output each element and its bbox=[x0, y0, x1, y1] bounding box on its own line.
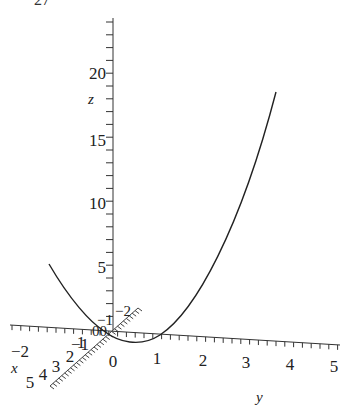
y-tick-label: −2 bbox=[11, 342, 29, 361]
z-tick-label: 20 bbox=[89, 64, 106, 83]
x-axis bbox=[50, 308, 142, 389]
z-tick-label: 10 bbox=[89, 194, 106, 213]
y-tick-label: 3 bbox=[242, 353, 251, 372]
origin-tick-00: 00 bbox=[92, 323, 107, 339]
y-tick-label: 5 bbox=[330, 357, 339, 376]
z-tick-label: 15 bbox=[89, 131, 106, 150]
y-axis bbox=[10, 325, 340, 350]
x-tick-label: 5 bbox=[26, 373, 35, 392]
y-axis-label: y bbox=[254, 389, 263, 405]
y-tick-label: 1 bbox=[153, 349, 162, 368]
plot-3d: z y x 2015105 −2−1012345 54321 −2 −1 00 bbox=[0, 0, 350, 409]
x-tick-label: 4 bbox=[39, 365, 48, 384]
y-tick-label: 4 bbox=[286, 355, 295, 374]
x-tick-label: 3 bbox=[52, 357, 61, 376]
x-axis-label: x bbox=[10, 360, 18, 376]
y-tick-label: 2 bbox=[199, 351, 208, 370]
z-axis bbox=[106, 18, 113, 330]
z-axis-label: z bbox=[87, 91, 94, 107]
data-curve bbox=[49, 92, 276, 342]
x-tick-label: 2 bbox=[66, 347, 75, 366]
y-tick-label: 0 bbox=[109, 352, 118, 371]
z-tick-label: 5 bbox=[98, 258, 107, 277]
x-tick-label: 1 bbox=[77, 333, 86, 352]
origin-tick-minus2: −2 bbox=[115, 303, 131, 319]
